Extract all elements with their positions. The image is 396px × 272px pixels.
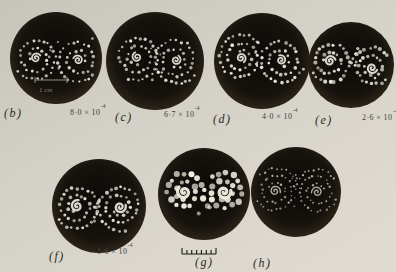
ruler-scale [182, 248, 216, 254]
panel-label-g: (g) [195, 255, 214, 270]
photo-panel-b: 1 cm [10, 12, 102, 104]
value-base: 2·6 × 10 [362, 113, 392, 122]
panel-label-h: (h) [253, 256, 272, 271]
value-label-c: 6·7 × 10-4 [164, 108, 199, 119]
value-base: 1·6 × 10 [97, 247, 127, 256]
photo-panels-canvas: 1 cm [0, 0, 396, 272]
value-exponent: -4 [293, 107, 298, 113]
panel-label-c: (c) [115, 110, 133, 125]
panel-label-d: (d) [213, 112, 232, 127]
value-label-d: 4·0 × 10-4 [262, 110, 297, 121]
value-label-b: 8·0 × 10-4 [70, 106, 105, 117]
value-exponent: -4 [195, 105, 200, 111]
photo-panel-d [214, 13, 310, 109]
value-base: 8·0 × 10 [70, 108, 100, 117]
photo-disc [158, 148, 250, 240]
value-base: 4·0 × 10 [262, 112, 292, 121]
panel-label-f: (f) [49, 249, 65, 264]
figure-scan: 1 cm (b)8·0 × 10-4(c)6·7 × 10-4(d)4·0 × … [0, 0, 396, 272]
photo-disc [308, 22, 394, 108]
value-label-e: 2·6 × 10-4 [362, 111, 396, 122]
photo-disc [251, 147, 341, 237]
photo-panel-c [106, 12, 204, 110]
value-base: 6·7 × 10 [164, 110, 194, 119]
panel-label-b: (b) [4, 106, 23, 121]
photo-panel-g [158, 148, 250, 240]
photo-panel-f [52, 159, 146, 253]
value-exponent: -4 [101, 103, 106, 109]
photo-disc [10, 12, 102, 104]
photo-panel-e [308, 22, 394, 108]
value-label-f: 1·6 × 10-4 [97, 245, 132, 256]
scale-bar-label: 1 cm [39, 86, 52, 94]
panel-label-e: (e) [315, 113, 333, 128]
value-exponent: -4 [128, 242, 133, 248]
photo-panel-h [251, 147, 341, 237]
